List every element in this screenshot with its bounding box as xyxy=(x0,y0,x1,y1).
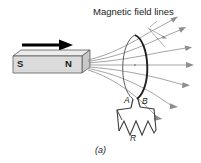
figure-illustration xyxy=(0,0,201,163)
figure-caption: (a) xyxy=(0,145,201,155)
bar-magnet xyxy=(13,50,90,73)
terminal-b-label: B xyxy=(142,97,148,107)
field-lines-label: Magnetic field lines xyxy=(93,7,163,18)
resistor-label: R xyxy=(130,134,136,144)
magnet-south-pole-label: S xyxy=(17,59,23,70)
terminal-a-label: A xyxy=(124,96,130,106)
figure-magnetic-induction: Magnetic field lines S N A B R (a) xyxy=(0,0,201,163)
magnetic-field-lines xyxy=(88,17,194,121)
resistor-circuit xyxy=(117,107,156,135)
magnet-north-pole-label: N xyxy=(65,59,72,70)
motion-arrow-icon xyxy=(22,40,73,51)
label-leader-lines xyxy=(148,21,167,47)
loop-terminal-leads xyxy=(131,99,140,108)
conducting-loop xyxy=(123,35,148,99)
